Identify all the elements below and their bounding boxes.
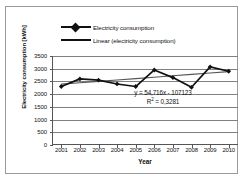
y-tick-label: 2500 [7,78,47,84]
legend-label-linear-trend: Linear (electricity consumption) [91,37,175,44]
equation-text: y = 54,716x - 107123 [103,89,223,96]
y-tick-label: 1500 [7,104,47,110]
y-tick-label: 500 [7,129,47,135]
trendline-equation-annotation: y = 54,716x - 107123 R2 = 0,3281 [103,89,223,105]
data-point-marker [115,82,120,87]
r-squared-value: = 0,3281 [154,98,180,105]
data-point-marker [78,76,83,81]
data-point-marker [59,84,64,89]
r-squared-text: R2 = 0,3281 [103,96,223,105]
series-path [61,67,228,87]
y-tick-label: 1000 [7,117,47,123]
legend-item-electricity-consumption: Electricity consumption [61,21,221,33]
chart-frame: Electricity consumption Linear (electric… [5,6,238,174]
legend-item-linear-trend: Linear (electricity consumption) [61,34,221,46]
chart-legend: Electricity consumption Linear (electric… [61,21,221,47]
y-tick-label: 3500 [7,53,47,59]
legend-marker-line-icon [61,22,91,32]
legend-label-electricity-consumption: Electricity consumption [91,24,154,31]
y-tick-label: 2000 [7,91,47,97]
data-point-marker [226,69,231,74]
y-tick-label: 0 [7,142,47,148]
y-tick [50,145,53,146]
legend-trendline-icon [61,35,91,45]
x-tick-label: 2010 [216,147,242,153]
x-axis-title: Year [52,158,238,165]
y-tick-label: 3000 [7,66,47,72]
